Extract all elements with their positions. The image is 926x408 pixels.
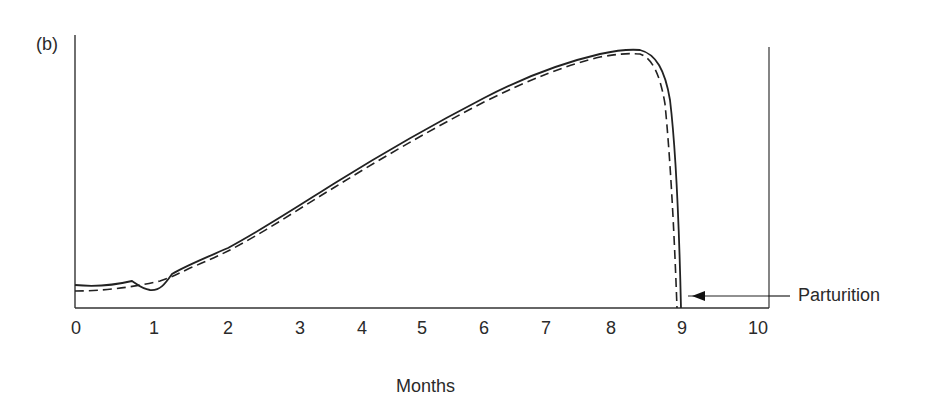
chart-canvas <box>0 0 926 408</box>
x-axis-title: Months <box>396 376 455 397</box>
x-tick-label: 3 <box>295 318 305 339</box>
x-tick-label: 8 <box>606 318 616 339</box>
x-tick-label: 10 <box>748 318 768 339</box>
x-tick-label: 1 <box>149 318 159 339</box>
x-tick-label: 0 <box>71 318 81 339</box>
x-tick-label: 9 <box>677 318 687 339</box>
arrowhead-icon <box>692 291 705 301</box>
parturition-annotation: Parturition <box>798 285 880 306</box>
x-tick-label: 6 <box>479 318 489 339</box>
dashed-curve <box>75 54 677 308</box>
x-tick-label: 4 <box>357 318 367 339</box>
x-tick-label: 7 <box>541 318 551 339</box>
x-tick-label: 2 <box>223 318 233 339</box>
x-tick-label: 5 <box>417 318 427 339</box>
panel-label: (b) <box>36 34 58 55</box>
solid-curve <box>75 50 681 308</box>
